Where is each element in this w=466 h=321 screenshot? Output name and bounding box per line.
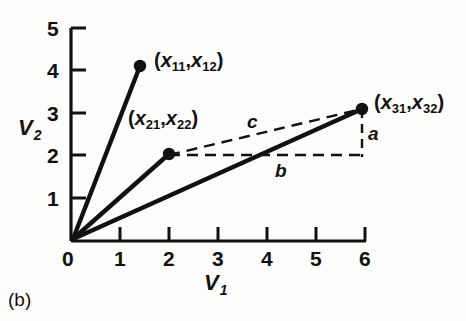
vector-plot-svg [0,0,466,321]
point-label-3: (x31,x32) [374,92,444,112]
y-axis-title-text: V [18,115,33,140]
point-label-1-x2: x [191,49,202,71]
x-tick-label-3: 3 [212,248,224,269]
point-label-3-x2: x [412,91,423,113]
point-label-2-sub2: 22 [177,117,191,132]
x-axis-title-sub: 1 [220,282,228,298]
y-tick-label-2: 2 [47,145,59,166]
point-label-3-close: ) [437,91,444,113]
point-label-3-sub1: 31 [392,101,406,116]
x-tick-label-4: 4 [261,248,273,269]
data-point-2 [163,148,175,160]
segment-label-a: a [368,124,379,143]
y-tick-label-3: 3 [47,103,59,124]
figure-caption-text: (b) [8,289,31,310]
x-axis-title-text: V [204,270,219,295]
y-axis-title-sub: 2 [34,127,42,143]
point-label-3-x1: x [381,91,392,113]
y-axis-title: V2 [18,117,40,139]
x-axis-title: V1 [204,272,226,294]
vector-diagram-figure: 5 4 3 2 1 0 1 2 3 4 5 6 V2 V1 (x11,x12) … [0,0,466,321]
point-label-1-open: ( [154,49,161,71]
data-point-1 [134,60,146,72]
data-point-3 [356,103,368,115]
y-tick-label-1: 1 [47,188,59,209]
origin-label: 0 [62,248,74,269]
point-label-1-sub2: 12 [202,59,216,74]
point-label-1-close: ) [217,49,224,71]
point-label-2-sub1: 21 [146,117,160,132]
segment-label-b: b [275,161,287,180]
point-label-3-open: ( [374,91,381,113]
point-label-2-open: ( [128,107,135,129]
x-tick-label-2: 2 [163,248,175,269]
y-tick-label-5: 5 [47,18,59,39]
point-label-2: (x21,x22) [128,108,198,128]
point-label-2-x2: x [166,107,177,129]
x-tick-label-6: 6 [359,248,371,269]
point-label-3-sub2: 32 [423,101,437,116]
point-label-2-close: ) [191,107,198,129]
figure-caption: (b) [8,290,31,309]
point-label-1-sub1: 11 [172,59,186,74]
x-tick-label-1: 1 [114,248,126,269]
point-label-1-x1: x [161,49,172,71]
x-tick-label-5: 5 [310,248,322,269]
point-label-1: (x11,x12) [154,50,223,70]
segment-label-c: c [247,112,258,131]
point-label-2-x1: x [135,107,146,129]
y-tick-label-4: 4 [47,60,59,81]
